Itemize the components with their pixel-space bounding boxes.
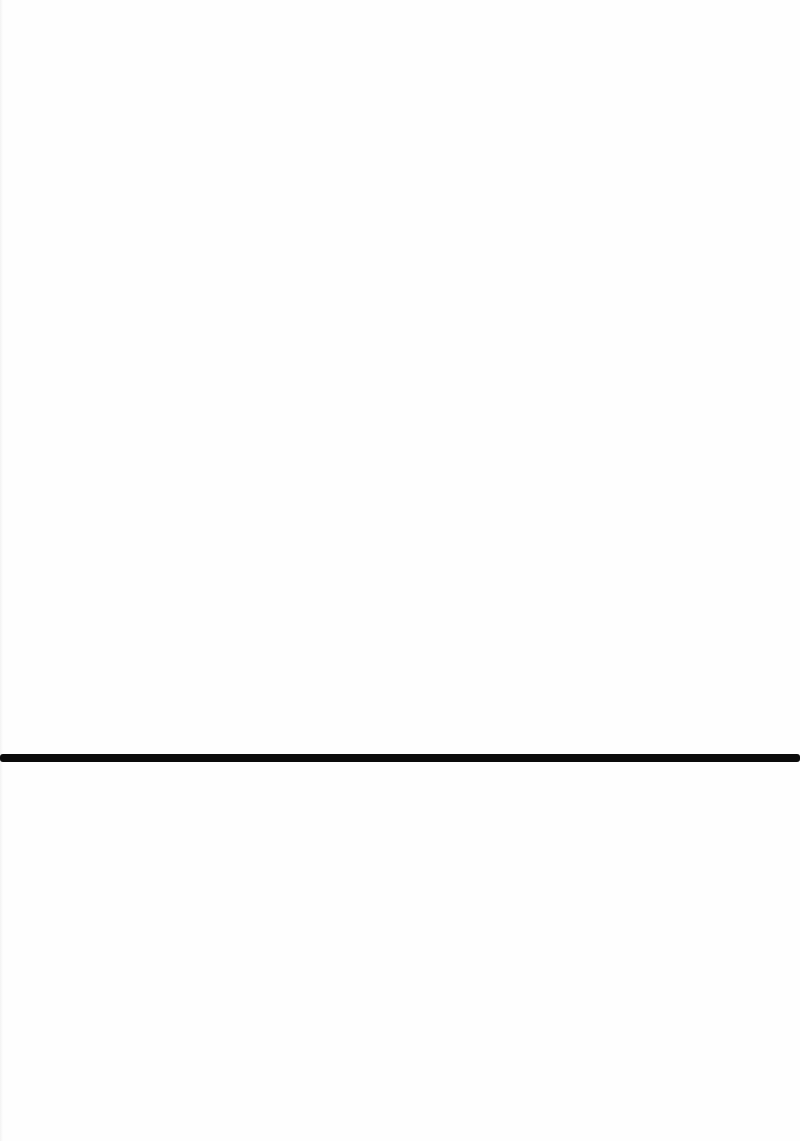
scan-edge-shadow: [0, 0, 3, 1141]
horizontal-rule: [0, 754, 800, 762]
scanned-page: [0, 0, 800, 1141]
